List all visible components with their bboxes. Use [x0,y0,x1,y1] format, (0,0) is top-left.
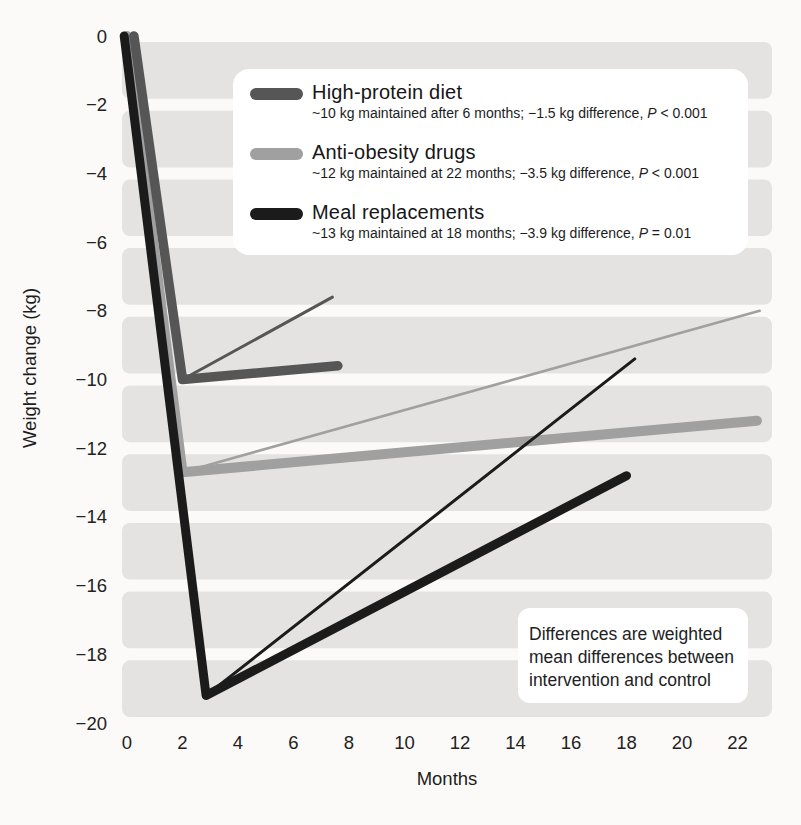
p-value: < 0.001 [648,165,699,181]
x-tick-label: 0 [122,732,132,753]
x-tick-label: 2 [177,732,187,753]
y-axis-title: Weight change (kg) [19,288,41,448]
annotation-line: Differences are weighted [529,623,740,646]
legend-label: Anti-obesity drugs [312,142,699,163]
legend-box: High-protein diet ~10 kg maintained afte… [233,69,748,255]
legend-swatch-meal-replacements [250,208,303,220]
legend-detail: ~13 kg maintained at 18 months; −3.9 kg … [312,224,691,242]
legend-item-high-protein-diet: High-protein diet ~10 kg maintained afte… [250,82,734,122]
legend-item-meal-replacements: Meal replacements ~13 kg maintained at 1… [250,202,734,242]
annotation-line: mean differences between [529,646,740,669]
legend-swatch-high-protein-diet [250,88,303,100]
x-tick-label: 22 [727,732,748,753]
y-tick-label: −18 [76,644,107,665]
x-tick-label: 6 [288,732,298,753]
legend-swatch-anti-obesity-drugs [250,148,303,160]
figure-page: 02468101214161820220−2−4−6−8−10−12−14−16… [0,0,801,825]
grid-band [122,317,772,374]
legend-detail-text: ~12 kg maintained at 22 months; −3.5 kg … [312,165,639,181]
x-tick-label: 8 [344,732,354,753]
legend-detail: ~12 kg maintained at 22 months; −3.5 kg … [312,164,699,182]
y-tick-label: −4 [86,163,107,184]
x-tick-label: 14 [505,732,526,753]
legend-detail-text: ~13 kg maintained at 18 months; −3.9 kg … [312,225,639,241]
p-symbol: P [647,105,656,121]
y-tick-label: −20 [76,713,107,734]
grid-band [122,386,772,443]
y-tick-label: −2 [86,94,107,115]
y-tick-label: −8 [86,300,107,321]
legend-item-anti-obesity-drugs: Anti-obesity drugs ~12 kg maintained at … [250,142,734,182]
y-tick-label: −6 [86,232,107,253]
p-value: = 0.01 [648,225,691,241]
p-symbol: P [639,165,648,181]
legend-detail: ~10 kg maintained after 6 months; −1.5 k… [312,104,708,122]
p-value: < 0.001 [657,105,708,121]
y-tick-label: −12 [76,438,107,459]
legend-label: High-protein diet [312,82,708,103]
annotation-line: intervention and control [529,669,740,692]
x-tick-label: 10 [394,732,415,753]
x-tick-label: 16 [561,732,582,753]
grid-band [122,248,772,305]
x-tick-label: 18 [616,732,637,753]
y-tick-label: 0 [97,26,107,47]
legend-detail-text: ~10 kg maintained after 6 months; −1.5 k… [312,105,647,121]
y-tick-label: −10 [76,369,107,390]
legend-label: Meal replacements [312,202,691,223]
y-tick-label: −16 [76,575,107,596]
x-tick-label: 12 [450,732,471,753]
x-axis-title: Months [417,768,478,790]
x-tick-label: 20 [672,732,693,753]
p-symbol: P [639,225,648,241]
y-tick-label: −14 [76,506,107,527]
x-tick-label: 4 [233,732,243,753]
annotation-box: Differences are weighted mean difference… [518,608,748,703]
